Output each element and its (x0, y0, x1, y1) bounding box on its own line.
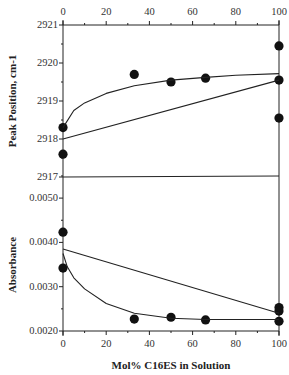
bottom-x-tick-label: 60 (187, 338, 198, 349)
top-x-tick-label: 40 (144, 6, 155, 17)
chart-plot: 0020204040606080801001002917291829192920… (0, 0, 289, 375)
top-data-point (166, 77, 175, 86)
bottom-y-tick-label: 0.0030 (29, 281, 58, 292)
bottom-data-point (130, 314, 139, 323)
top-y-tick-label: 2917 (37, 171, 58, 182)
top-data-point (274, 114, 283, 123)
bottom-y-tick-label: 0.0050 (29, 192, 58, 203)
top-linear-line (63, 80, 279, 139)
bottom-y-tick-label: 0.0040 (29, 236, 58, 247)
bottom-fit-curve (63, 254, 279, 320)
top-y-tick-label: 2920 (37, 57, 58, 68)
top-x-tick-label: 100 (271, 6, 287, 17)
top-data-point (274, 41, 283, 50)
top-x-tick-label: 0 (60, 6, 65, 17)
bottom-data-point (274, 317, 283, 326)
bottom-x-tick-label: 40 (144, 338, 155, 349)
bottom-data-point (58, 228, 67, 237)
bottom-x-tick-label: 0 (60, 338, 65, 349)
top-data-point (58, 150, 67, 159)
bottom-linear-line (63, 249, 279, 313)
top-y-axis-title: Peak Position, cm-1 (6, 55, 18, 148)
top-y-tick-label: 2919 (37, 95, 58, 106)
x-axis-title: Mol% C16ES in Solution (112, 359, 231, 371)
top-x-tick-label: 60 (187, 6, 198, 17)
top-x-tick-label: 20 (101, 6, 112, 17)
top-y-tick-label: 2921 (37, 19, 58, 30)
top-y-tick-label: 2918 (37, 133, 58, 144)
panel-divider (63, 176, 279, 177)
bottom-x-tick-label: 80 (231, 338, 242, 349)
bottom-y-axis-title: Absorbance (6, 237, 18, 293)
bottom-y-tick-label: 0.0020 (29, 325, 58, 336)
bottom-x-tick-label: 100 (271, 338, 287, 349)
bottom-data-point (274, 306, 283, 315)
chart: 0020204040606080801001002917291829192920… (0, 0, 289, 375)
bottom-x-tick-label: 20 (101, 338, 112, 349)
top-data-point (130, 70, 139, 79)
top-x-tick-label: 80 (231, 6, 242, 17)
